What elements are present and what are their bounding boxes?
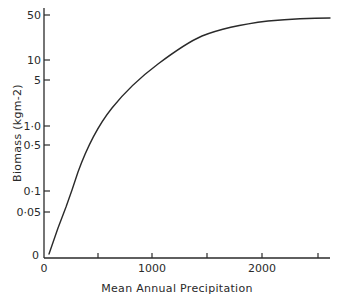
y-label-0-1: 0·1 (24, 185, 42, 198)
y-label-0: 0 (32, 249, 39, 262)
chart: 50 10 5 1·0 0·5 0·1 0·05 0 0 1000 2000 M… (0, 0, 337, 301)
x-label-1000: 1000 (138, 262, 166, 275)
x-label-0: 0 (41, 262, 48, 275)
y-label-10: 10 (27, 54, 41, 67)
x-ticks (98, 253, 318, 258)
y-label-50: 50 (27, 9, 41, 22)
x-label-2000: 2000 (248, 262, 276, 275)
biomass-curve (49, 18, 330, 254)
y-label-0-05: 0·05 (17, 206, 42, 219)
x-tick-labels: 0 1000 2000 (41, 262, 277, 275)
y-label-1: 1·0 (24, 120, 42, 133)
y-label-5: 5 (34, 74, 41, 87)
y-ticks (44, 15, 50, 212)
y-axis-title: Biomass (kgm-2) (11, 84, 24, 182)
y-label-0-5: 0·5 (24, 139, 42, 152)
x-axis-title: Mean Annual Precipitation (101, 282, 252, 295)
